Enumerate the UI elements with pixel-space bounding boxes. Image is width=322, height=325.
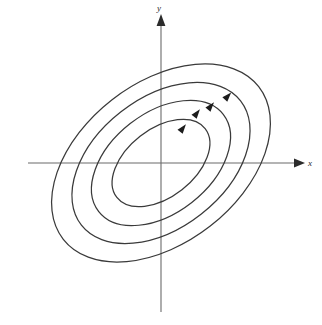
- flow-direction-arrowhead: [191, 109, 199, 119]
- phase-portrait-figure: x y: [0, 0, 322, 325]
- phase-portrait-canvas: x y: [0, 0, 322, 325]
- x-axis-arrowhead: [294, 159, 305, 168]
- x-axis-label: x: [307, 158, 312, 168]
- flow-direction-arrowhead: [177, 124, 185, 134]
- axes-group: x y: [28, 3, 312, 312]
- y-axis-label: y: [156, 3, 161, 13]
- flow-direction-arrowhead: [222, 92, 231, 101]
- y-axis-arrowhead: [157, 14, 166, 26]
